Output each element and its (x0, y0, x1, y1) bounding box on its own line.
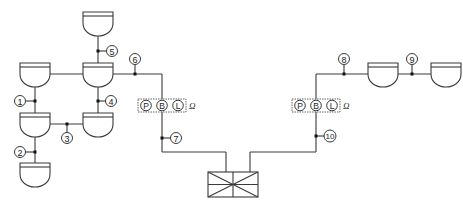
svg-text:8: 8 (341, 55, 346, 65)
pbl-letter-p: P (143, 101, 149, 111)
svg-text:7: 7 (173, 134, 178, 144)
node-label-8: 8 (339, 54, 350, 65)
unit-left-top (20, 63, 50, 87)
svg-text:9: 9 (409, 55, 414, 65)
node-label-2: 2 (15, 147, 26, 158)
svg-text:10: 10 (326, 132, 335, 141)
node-label-4: 4 (106, 96, 117, 107)
node-label-7: 7 (171, 133, 182, 144)
unit-right-mid (83, 113, 113, 137)
unit-right-1 (368, 63, 398, 87)
omega-icon: Ω (189, 101, 196, 111)
unit-left-mid (20, 113, 50, 137)
central-junction-box (208, 172, 258, 197)
connection-lines (35, 36, 431, 172)
node-label-3: 3 (62, 133, 73, 144)
pbl-letter-p: P (297, 101, 303, 111)
network-diagram: 1 2 3 4 5 6 7 8 (0, 0, 463, 209)
pbl-letter-b: B (313, 101, 319, 111)
svg-text:6: 6 (132, 55, 137, 65)
svg-text:1: 1 (17, 97, 22, 107)
node-label-9: 9 (407, 54, 418, 65)
pbl-group-left: P B L Ω (138, 99, 196, 112)
unit-left-bottom (20, 163, 50, 187)
node-label-6: 6 (130, 54, 141, 65)
unit-top (83, 12, 113, 36)
pbl-letter-l: L (176, 101, 181, 111)
pbl-group-right: P B L Ω (292, 99, 350, 112)
svg-text:3: 3 (64, 134, 69, 144)
pbl-letter-l: L (330, 101, 335, 111)
svg-text:2: 2 (17, 148, 22, 158)
units (20, 12, 461, 187)
svg-text:4: 4 (108, 97, 113, 107)
node-labels: 1 2 3 4 5 6 7 8 (15, 46, 418, 158)
pbl-letter-b: B (159, 101, 165, 111)
omega-icon: Ω (343, 101, 350, 111)
unit-hub (83, 63, 113, 87)
node-label-1: 1 (15, 96, 26, 107)
unit-right-2 (431, 63, 461, 87)
svg-text:5: 5 (109, 47, 114, 57)
node-label-10: 10 (324, 130, 336, 142)
node-label-5: 5 (107, 46, 118, 57)
